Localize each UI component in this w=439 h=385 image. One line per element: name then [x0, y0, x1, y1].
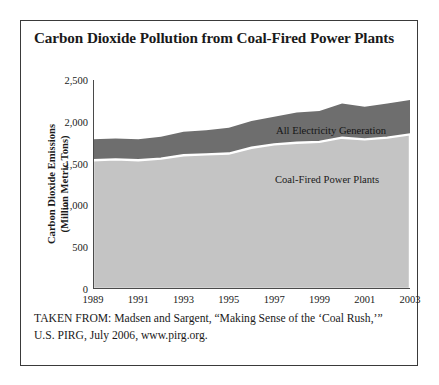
y-axis-tick-label: 0 [83, 284, 88, 295]
x-axis-tick-label: 2001 [354, 294, 375, 305]
chart-plot-area: Carbon Dioxide Emissions (Million Metric… [93, 80, 410, 289]
y-axis-title-line-1: Carbon Dioxide Emissions [45, 88, 58, 280]
x-axis-tick-label: 1999 [309, 294, 330, 305]
y-axis-tick-label: 2,000 [64, 116, 88, 127]
y-axis-tick-label: 1,000 [64, 200, 88, 211]
page-title: Carbon Dioxide Pollution from Coal-Fired… [34, 29, 406, 47]
y-axis-tick-label: 1,500 [64, 158, 88, 169]
x-axis-tick-label: 1989 [83, 294, 104, 305]
series-label-coal-fired-power-plants: Coal-Fired Power Plants [275, 174, 379, 185]
source-attribution: TAKEN FROM: Madsen and Sargent, “Making … [34, 310, 402, 344]
y-axis-tick-label: 500 [72, 242, 88, 253]
x-axis-tick-label: 2003 [400, 294, 421, 305]
figure-container: Carbon Dioxide Pollution from Coal-Fired… [20, 20, 418, 366]
y-axis-tick-label: 2,500 [64, 75, 88, 86]
x-axis-tick-label: 1997 [264, 294, 285, 305]
x-axis-tick-label: 1991 [128, 294, 149, 305]
series-label-all-electricity-generation: All Electricity Generation [276, 125, 386, 136]
x-axis-tick-label: 1995 [218, 294, 239, 305]
x-axis-tick-label: 1993 [173, 294, 194, 305]
